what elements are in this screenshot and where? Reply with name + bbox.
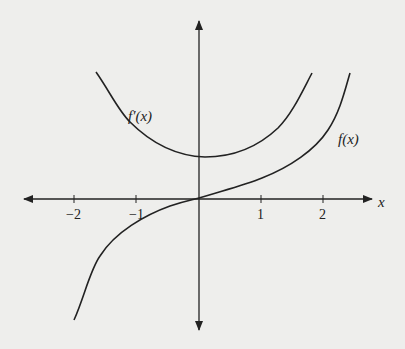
f-label: f(x) — [338, 131, 359, 148]
fprime-label: f′(x) — [128, 108, 152, 125]
tick-label-2: 2 — [319, 207, 326, 222]
x-axis-label: x — [377, 194, 385, 210]
tick-label-neg2: −2 — [66, 207, 81, 222]
chart: −2 −1 1 2 x f′(x) f(x) — [0, 0, 405, 349]
tick-label-1: 1 — [257, 207, 264, 222]
f-curve — [74, 73, 350, 320]
plot-area: −2 −1 1 2 x f′(x) f(x) — [0, 0, 405, 349]
